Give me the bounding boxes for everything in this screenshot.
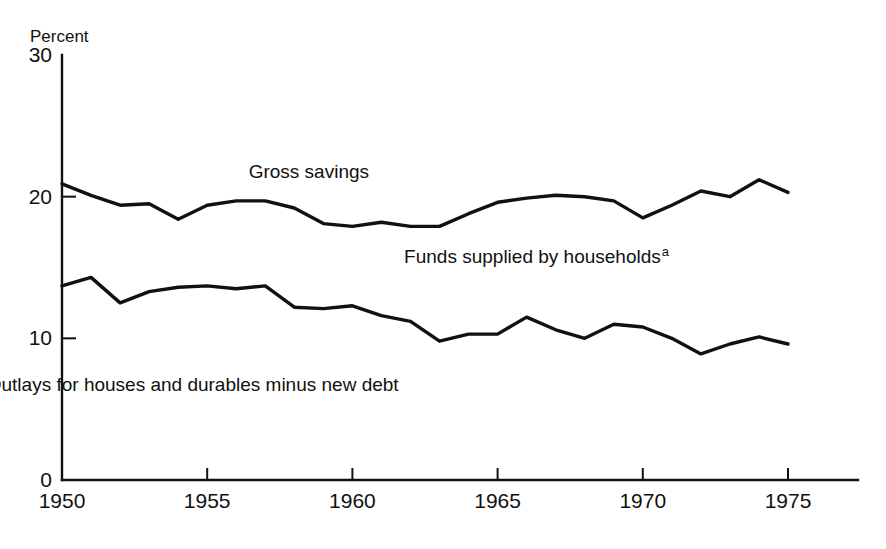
annotation-text: Funds supplied by households (404, 246, 661, 267)
series-line-gross-savings (62, 180, 788, 227)
annotation-funds-supplied: Funds supplied by households a (404, 244, 670, 267)
series-line-outlays (62, 277, 788, 354)
x-tick-label-1975: 1975 (765, 489, 812, 512)
y-axis-tick-labels: 0102030 (29, 43, 52, 491)
x-tick-label-1965: 1965 (474, 489, 521, 512)
y-tick-label-20: 20 (29, 185, 52, 208)
y-tick-label-30: 30 (29, 43, 52, 66)
y-tick-label-10: 10 (29, 326, 52, 349)
y-tick-label-0: 0 (40, 468, 52, 491)
y-axis-title: Percent (30, 27, 89, 46)
x-tick-label-1950: 1950 (39, 489, 86, 512)
series-label-gross-savings: Gross savings (249, 161, 369, 182)
x-tick-label-1970: 1970 (619, 489, 666, 512)
x-axis-tick-labels: 195019551960196519701975 (39, 489, 812, 512)
chart-figure: 195019551960196519701975 0102030 Percent… (0, 0, 886, 549)
x-axis-ticks (207, 468, 788, 480)
y-axis-ticks (62, 197, 76, 339)
line-chart: 195019551960196519701975 0102030 Percent… (0, 0, 886, 549)
series-label-outlays: Outlays for houses and durables minus ne… (0, 374, 399, 395)
footnote-marker: a (662, 244, 670, 259)
x-tick-label-1955: 1955 (184, 489, 231, 512)
x-tick-label-1960: 1960 (329, 489, 376, 512)
